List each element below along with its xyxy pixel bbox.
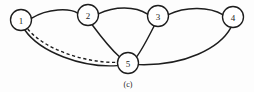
figure-caption: (c) (124, 80, 133, 89)
graph-node-label-3: 3 (156, 12, 161, 22)
graph-node-1[interactable]: 1 (11, 10, 32, 31)
graph-edge-1-2 (31, 10, 77, 19)
graph-node-label-5: 5 (126, 59, 131, 69)
graph-node-4[interactable]: 4 (223, 7, 244, 28)
graph-edge-2-3 (98, 8, 147, 14)
graph-canvas: 12345 (c) (0, 0, 254, 92)
graph-node-3[interactable]: 3 (148, 6, 169, 27)
nodes-layer: 12345 (11, 5, 244, 74)
graph-edge-3-5 (136, 26, 154, 57)
graph-node-label-2: 2 (86, 11, 91, 21)
graph-node-label-4: 4 (231, 13, 236, 23)
graph-node-label-1: 1 (19, 16, 24, 26)
graph-edge-2-5 (93, 25, 120, 57)
graph-node-5[interactable]: 5 (118, 53, 139, 74)
graph-edge-4-5 (139, 27, 231, 64)
graph-edge-1-5 (25, 30, 118, 66)
graph-node-2[interactable]: 2 (78, 5, 99, 26)
graph-edge-3-4 (168, 9, 222, 15)
figure-container: 12345 (c) (0, 0, 254, 92)
